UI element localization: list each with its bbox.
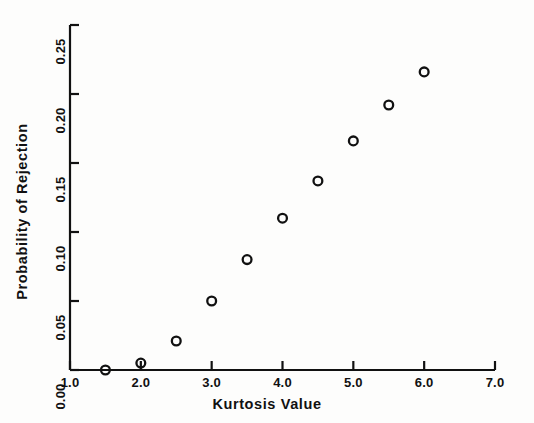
y-axis-title: Probability of Rejection bbox=[10, 0, 34, 423]
data-point-marker bbox=[172, 337, 181, 346]
x-tick-label: 3.0 bbox=[182, 375, 242, 390]
y-axis-ticks bbox=[70, 25, 79, 370]
data-point-marker bbox=[278, 214, 287, 223]
chart-figure: 1.02.03.04.05.06.07.0 0.000.050.100.150.… bbox=[0, 0, 534, 423]
y-tick-label: 0.10 bbox=[53, 231, 68, 287]
x-tick-label: 4.0 bbox=[253, 375, 313, 390]
x-axis-ticks bbox=[70, 361, 495, 370]
y-tick-label: 0.20 bbox=[53, 93, 68, 149]
data-point-marker bbox=[420, 68, 429, 77]
x-tick-label: 2.0 bbox=[111, 375, 171, 390]
x-tick-label: 5.0 bbox=[323, 375, 383, 390]
data-point-marker bbox=[243, 255, 252, 264]
data-point-marker bbox=[314, 177, 323, 186]
x-tick-label: 1.0 bbox=[40, 375, 100, 390]
data-point-marker bbox=[384, 101, 393, 110]
scatter-plot-canvas bbox=[0, 0, 534, 423]
x-tick-label: 6.0 bbox=[394, 375, 454, 390]
x-axis-title: Kurtosis Value bbox=[0, 396, 534, 412]
axis-spines bbox=[70, 25, 495, 370]
data-point-markers bbox=[101, 68, 429, 375]
x-tick-label: 7.0 bbox=[465, 375, 525, 390]
y-tick-label: 0.15 bbox=[53, 162, 68, 218]
y-tick-label: 0.25 bbox=[53, 24, 68, 80]
data-point-marker bbox=[349, 137, 358, 146]
data-point-marker bbox=[207, 297, 216, 306]
y-tick-label: 0.05 bbox=[53, 300, 68, 356]
